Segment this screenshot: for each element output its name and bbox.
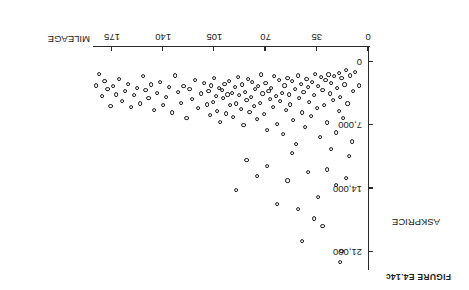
scatter-point	[266, 89, 270, 93]
scatter-point	[309, 114, 313, 118]
scatter-point	[294, 142, 298, 146]
scatter-point	[310, 80, 314, 84]
scatter-point	[288, 102, 292, 106]
scatter-point	[300, 239, 304, 243]
scatter-point	[135, 86, 139, 90]
scatter-point	[277, 78, 281, 82]
scatter-point	[214, 94, 218, 98]
scatter-point	[264, 81, 268, 85]
scatter-point	[274, 94, 278, 98]
scatter-point	[350, 140, 354, 144]
scatter-point	[185, 116, 189, 120]
scatter-point	[123, 89, 127, 93]
scatter-point	[329, 147, 333, 151]
scatter-point	[322, 103, 326, 107]
scatter-point	[315, 106, 319, 110]
scatter-point	[334, 130, 338, 134]
scatter-point	[179, 101, 183, 105]
scatter-point	[307, 100, 311, 104]
scatter-point	[138, 102, 142, 106]
scatter-point	[329, 81, 333, 85]
scatter-point	[261, 92, 265, 96]
scatter-point	[326, 73, 330, 77]
scatter-point	[231, 115, 235, 119]
scatter-point	[335, 86, 339, 90]
scatter-point	[285, 178, 289, 182]
scatter-point	[129, 105, 133, 109]
scatter-point	[250, 80, 254, 84]
scatter-point	[259, 73, 263, 77]
scatter-point	[287, 92, 291, 96]
scatter-point	[146, 96, 150, 100]
scatter-point	[94, 83, 98, 87]
scatter-point	[290, 151, 294, 155]
scatter-point	[265, 164, 269, 168]
scatter-point	[190, 97, 194, 101]
scatter-point	[299, 82, 303, 86]
scatter-point	[206, 89, 210, 93]
scatter-point	[126, 82, 130, 86]
scatter-point	[228, 103, 232, 107]
scatter-point	[212, 76, 216, 80]
scatter-point	[265, 128, 269, 132]
scatter-point	[245, 158, 249, 162]
scatter-point	[225, 92, 229, 96]
scatter-point	[208, 113, 212, 117]
scatter-point	[338, 260, 342, 264]
scatter-point	[323, 78, 327, 82]
scatter-point	[332, 74, 336, 78]
scatter-point	[132, 93, 136, 97]
scatter-point	[325, 121, 329, 125]
scatter-point	[275, 122, 279, 126]
scatter-point	[217, 86, 221, 90]
scatter-point	[236, 75, 240, 79]
scatter-point	[223, 82, 227, 86]
scatter-point	[161, 103, 165, 107]
scatter-figure: FIGURE E4.14c 03570105140175 07,00014,00…	[0, 0, 469, 290]
scatter-point	[193, 78, 197, 82]
scatter-point	[313, 72, 317, 76]
scatter-point	[334, 183, 338, 187]
scatter-point	[302, 90, 306, 94]
scatter-point	[275, 202, 279, 206]
scatter-point	[312, 93, 316, 97]
scatter-point	[117, 77, 121, 81]
scatter-point	[337, 71, 341, 75]
scatter-point	[176, 90, 180, 94]
scatter-point	[242, 123, 246, 127]
scatter-point	[233, 85, 237, 89]
scatter-point	[340, 249, 344, 253]
scatter-point	[284, 108, 288, 112]
scatter-point	[331, 98, 335, 102]
scatter-point	[100, 94, 104, 98]
scatter-point	[316, 195, 320, 199]
scatter-point	[170, 111, 174, 115]
scatter-point	[281, 132, 285, 136]
scatter-point	[291, 118, 295, 122]
scatter-point	[343, 83, 347, 87]
scatter-plot-area	[0, 0, 469, 290]
scatter-point	[246, 77, 250, 81]
scatter-point	[106, 87, 110, 91]
scatter-point	[97, 72, 101, 76]
scatter-point	[249, 95, 253, 99]
scatter-point	[230, 91, 234, 95]
scatter-point	[344, 176, 348, 180]
scatter-point	[252, 104, 256, 108]
scatter-point	[341, 116, 345, 120]
scatter-point	[182, 84, 186, 88]
scatter-point	[337, 109, 341, 113]
scatter-point	[237, 93, 241, 97]
scatter-point	[297, 96, 301, 100]
scatter-point	[262, 112, 266, 116]
scatter-point	[293, 87, 297, 91]
scatter-point	[296, 73, 300, 77]
scatter-point	[312, 216, 316, 220]
scatter-point	[243, 90, 247, 94]
scatter-point	[280, 91, 284, 95]
scatter-point	[199, 92, 203, 96]
scatter-point	[205, 102, 209, 106]
scatter-point	[141, 74, 145, 78]
scatter-point	[149, 83, 153, 87]
scatter-point	[316, 84, 320, 88]
